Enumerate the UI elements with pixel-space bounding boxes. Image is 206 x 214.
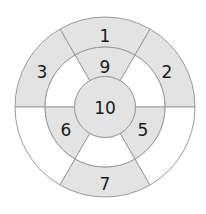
label-center: 10 — [94, 98, 116, 118]
label-outer-upper-right: 2 — [162, 62, 173, 82]
target-diagram: 1 2 3 7 9 6 5 10 — [0, 0, 206, 214]
label-outer-top: 1 — [100, 26, 111, 46]
label-outer-bottom: 7 — [100, 174, 111, 194]
label-outer-upper-left: 3 — [37, 62, 48, 82]
label-middle-lower-right: 5 — [138, 120, 149, 140]
label-middle-top: 9 — [100, 57, 111, 77]
label-middle-lower-left: 6 — [61, 120, 72, 140]
